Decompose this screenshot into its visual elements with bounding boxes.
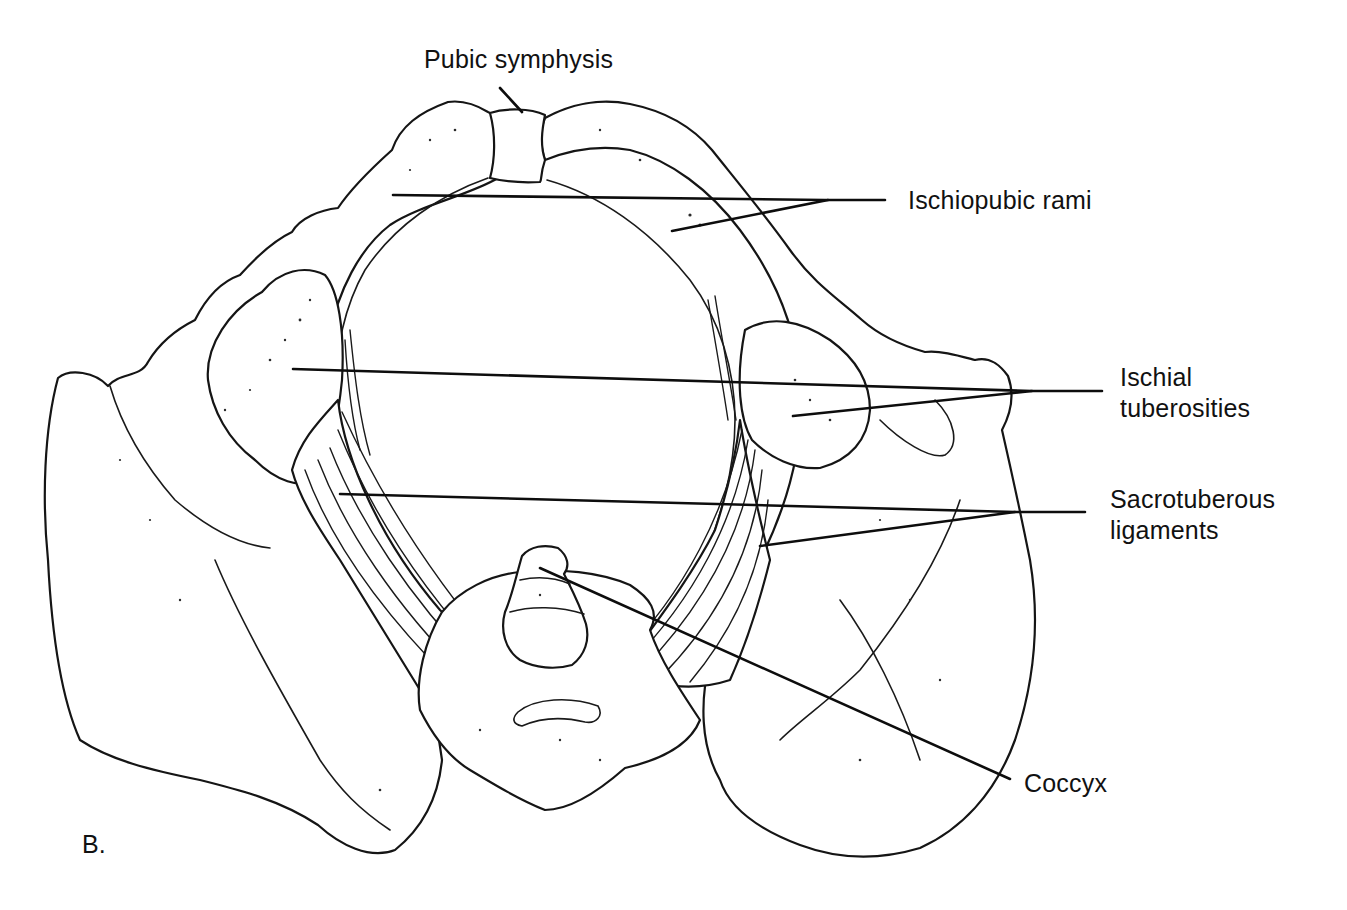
right-ramus-inner-edge bbox=[547, 180, 735, 570]
pelvis-diagram: Pubic symphysis Ischiopubic rami Ischial… bbox=[0, 0, 1347, 910]
pelvis-illustration bbox=[0, 0, 1347, 910]
label-sacrotuberous-ligaments-line-2: ligaments bbox=[1110, 515, 1275, 546]
label-sacrotuberous-ligaments: Sacrotuberous ligaments bbox=[1110, 484, 1275, 546]
label-ischiopubic-rami: Ischiopubic rami bbox=[908, 185, 1092, 216]
label-sacrotuberous-ligaments-line-1: Sacrotuberous bbox=[1110, 484, 1275, 515]
panel-letter: B. bbox=[82, 830, 106, 859]
leader-pubic-symphysis bbox=[500, 88, 522, 112]
label-ischial-tuberosities: Ischial tuberosities bbox=[1120, 362, 1250, 424]
label-ischial-tuberosities-line-1: Ischial bbox=[1120, 362, 1250, 393]
label-pubic-symphysis-text: Pubic symphysis bbox=[424, 45, 613, 73]
pubic-symphysis-shape bbox=[490, 109, 545, 182]
label-ischial-tuberosities-line-2: tuberosities bbox=[1120, 393, 1250, 424]
coccyx-shape bbox=[503, 546, 587, 668]
left-hip-bone bbox=[45, 101, 503, 853]
label-coccyx: Coccyx bbox=[1024, 768, 1107, 799]
leader-ischiopubic-rami-left bbox=[393, 195, 885, 200]
label-pubic-symphysis: Pubic symphysis bbox=[424, 44, 613, 75]
label-coccyx-text: Coccyx bbox=[1024, 769, 1107, 797]
label-ischiopubic-rami-text: Ischiopubic rami bbox=[908, 186, 1092, 214]
